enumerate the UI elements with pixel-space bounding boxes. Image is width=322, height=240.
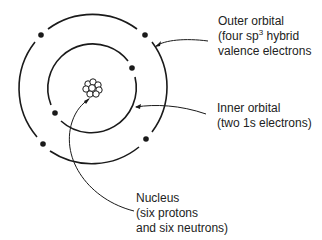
electron-outer-1: [38, 32, 44, 38]
inner-leader: [136, 105, 206, 114]
electron-inner-2: [52, 110, 58, 116]
electron-outer-4: [143, 136, 149, 142]
nucleus-icon: [83, 79, 102, 97]
electron-outer-2: [142, 32, 148, 38]
nucleus-leader: [69, 99, 134, 211]
electron-outer-3: [40, 141, 46, 147]
outer-leader: [156, 40, 208, 46]
electron-inner-1: [129, 65, 135, 71]
nucleus-label: Nucleus (six protons and six neutrons): [136, 191, 228, 236]
arrowheads: [84, 41, 161, 109]
leader-lines: [69, 40, 208, 211]
outer-orbital-label: Outer orbital (four sp3 hybrid valence e…: [218, 14, 311, 59]
inner-orbital-label: Inner orbital (two 1s electrons): [217, 101, 312, 131]
carbon-atom-diagram: Outer orbital (four sp3 hybrid valence e…: [0, 0, 322, 240]
